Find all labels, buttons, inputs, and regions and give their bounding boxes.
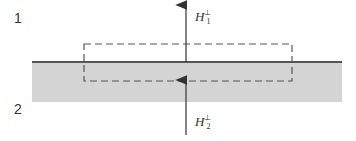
diagram-canvas [0,0,356,141]
h1-subscript: 1 [206,17,210,26]
h1-superscript: ⊥ [204,8,211,17]
h1-symbol: H [195,9,204,24]
h2-symbol: H [195,114,204,129]
region-2-label: 2 [14,102,22,116]
h1-field-label: H⊥1 [195,10,215,23]
h2-field-label: H⊥2 [195,115,215,128]
h2-subscript: 2 [206,122,210,131]
h2-superscript: ⊥ [204,113,211,122]
region-1-label: 1 [14,11,22,25]
medium-2-region [32,62,342,102]
interface-diagram: 1 2 H⊥1 H⊥2 [0,0,356,141]
